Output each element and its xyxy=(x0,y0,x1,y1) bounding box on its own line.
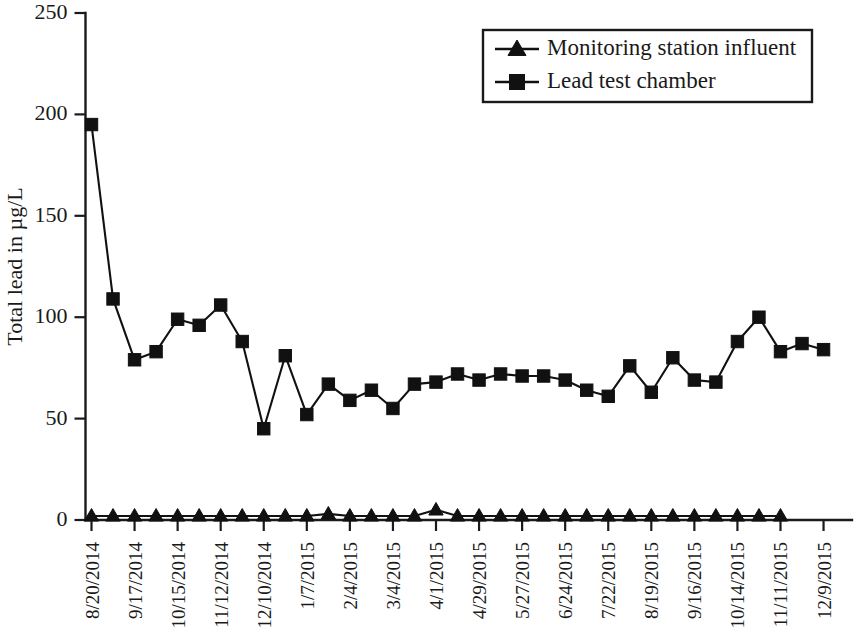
y-axis-title: Total lead in µg/L xyxy=(2,187,27,345)
x-tick-label: 7/22/2015 xyxy=(598,542,619,619)
data-point-triangle xyxy=(536,509,550,522)
data-point-square xyxy=(559,374,571,386)
lead-concentration-line-chart: 050100150200250 Total lead in µg/L 8/20/… xyxy=(0,0,862,642)
data-point-square xyxy=(710,376,722,388)
data-point-triangle xyxy=(623,509,637,522)
data-point-square xyxy=(688,374,700,386)
y-tick-label: 200 xyxy=(35,100,68,125)
legend-marker-square-icon xyxy=(510,75,525,90)
x-tick-label: 12/10/2014 xyxy=(254,542,275,629)
data-point-triangle xyxy=(170,509,184,522)
y-axis-group: 050100150200250 Total lead in µg/L xyxy=(2,0,86,531)
data-point-triangle xyxy=(515,509,529,522)
legend-label: Monitoring station influent xyxy=(547,35,797,60)
data-point-square xyxy=(214,299,226,311)
data-point-square xyxy=(796,337,808,349)
data-point-square xyxy=(774,345,786,357)
y-tick-label: 0 xyxy=(57,506,68,531)
data-point-square xyxy=(107,293,119,305)
x-tick-label: 4/29/2015 xyxy=(469,542,490,619)
y-tick-label: 100 xyxy=(35,303,68,328)
y-axis-tick-labels: 050100150200250 xyxy=(35,0,68,531)
x-tick-label: 9/17/2014 xyxy=(125,542,146,620)
data-point-square xyxy=(817,343,829,355)
chart-legend: Monitoring station influentLead test cha… xyxy=(483,30,812,102)
x-tick-label: 4/1/2015 xyxy=(426,542,447,610)
x-tick-label: 8/20/2014 xyxy=(82,542,103,620)
data-point-square xyxy=(408,378,420,390)
data-point-square xyxy=(365,384,377,396)
data-point-triangle xyxy=(687,509,701,522)
data-point-triangle xyxy=(149,509,163,522)
data-point-triangle xyxy=(257,509,271,522)
x-tick-label: 11/12/2014 xyxy=(211,542,232,628)
data-point-square xyxy=(279,350,291,362)
data-point-square xyxy=(494,368,506,380)
data-point-triangle xyxy=(278,509,292,522)
series-monitoring-station-influent xyxy=(84,502,787,521)
x-tick-label: 10/15/2014 xyxy=(168,542,189,629)
x-tick-label: 9/16/2015 xyxy=(684,542,705,619)
x-tick-label: 2/4/2015 xyxy=(340,542,361,610)
x-tick-label: 11/11/2015 xyxy=(770,542,791,627)
data-point-triangle xyxy=(601,509,615,522)
data-point-square xyxy=(731,335,743,347)
data-point-triangle xyxy=(213,509,227,522)
data-point-square xyxy=(667,352,679,364)
data-point-triangle xyxy=(321,507,335,520)
x-axis-group: 8/20/20149/17/201410/15/201411/12/201412… xyxy=(82,520,853,629)
x-axis-ticks xyxy=(92,520,824,531)
y-tick-label: 250 xyxy=(35,0,68,24)
legend-label: Lead test chamber xyxy=(547,68,716,93)
data-point-triangle xyxy=(472,509,486,522)
y-axis-ticks xyxy=(75,13,86,520)
data-point-triangle xyxy=(752,509,766,522)
data-point-square xyxy=(602,390,614,402)
data-point-triangle xyxy=(192,509,206,522)
data-point-square xyxy=(193,319,205,331)
data-point-triangle xyxy=(127,509,141,522)
data-point-triangle xyxy=(709,509,723,522)
data-point-square xyxy=(85,118,97,130)
x-tick-label: 5/27/2015 xyxy=(512,542,533,619)
data-point-square xyxy=(171,313,183,325)
x-tick-label: 10/14/2015 xyxy=(727,542,748,629)
data-point-triangle xyxy=(493,509,507,522)
series-lead-test-chamber xyxy=(85,118,829,435)
data-point-square xyxy=(624,360,636,372)
data-point-square xyxy=(581,384,593,396)
data-point-triangle xyxy=(386,509,400,522)
data-point-square xyxy=(516,370,528,382)
y-tick-label: 150 xyxy=(35,202,68,227)
data-point-square xyxy=(451,368,463,380)
data-point-square xyxy=(301,408,313,420)
data-point-square xyxy=(236,335,248,347)
data-point-square xyxy=(322,378,334,390)
x-tick-label: 6/24/2015 xyxy=(555,542,576,619)
x-tick-label: 1/7/2015 xyxy=(297,542,318,610)
data-point-square xyxy=(258,423,270,435)
chart-page: 050100150200250 Total lead in µg/L 8/20/… xyxy=(0,0,862,642)
data-point-triangle xyxy=(364,509,378,522)
data-point-square xyxy=(430,376,442,388)
data-point-square xyxy=(537,370,549,382)
x-tick-label: 3/4/2015 xyxy=(383,542,404,610)
data-series-layer xyxy=(84,118,829,521)
data-point-triangle xyxy=(235,509,249,522)
data-point-triangle xyxy=(106,509,120,522)
data-point-triangle xyxy=(644,509,658,522)
x-axis-tick-labels: 8/20/20149/17/201410/15/201411/12/201412… xyxy=(82,542,835,629)
data-point-square xyxy=(344,394,356,406)
x-tick-label: 12/9/2015 xyxy=(814,542,835,619)
y-tick-label: 50 xyxy=(46,405,68,430)
data-point-triangle xyxy=(558,509,572,522)
x-tick-label: 8/19/2015 xyxy=(641,542,662,619)
data-point-square xyxy=(387,402,399,414)
data-point-triangle xyxy=(580,509,594,522)
data-point-square xyxy=(473,374,485,386)
data-point-triangle xyxy=(773,509,787,522)
data-point-triangle xyxy=(730,509,744,522)
data-point-square xyxy=(128,354,140,366)
data-point-square xyxy=(645,386,657,398)
data-point-square xyxy=(150,345,162,357)
